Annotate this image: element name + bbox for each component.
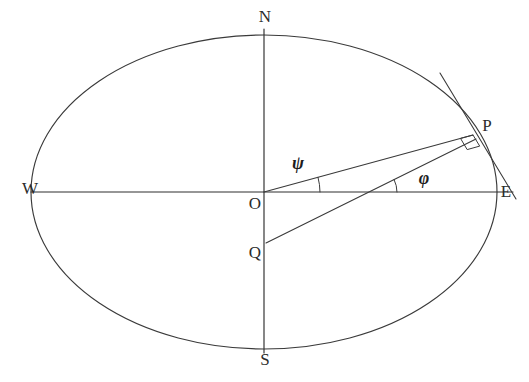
label-angle-psi: ψ [292, 153, 305, 173]
label-point-o: O [249, 194, 261, 213]
label-west: W [22, 179, 39, 198]
label-north: N [259, 7, 271, 26]
label-angle-phi: φ [419, 168, 430, 188]
ellipse-geometry-figure: N S W E O Q P ψ φ [0, 0, 529, 382]
label-east: E [501, 182, 511, 201]
angle-arc-phi [394, 180, 397, 192]
geometry-diagram-canvas: N S W E O Q P ψ φ [0, 0, 529, 382]
label-south: S [260, 350, 269, 369]
label-point-q: Q [249, 243, 261, 262]
angle-arc-psi [318, 177, 320, 192]
label-point-p: P [482, 116, 491, 135]
tangent-line-at-p [440, 73, 516, 199]
